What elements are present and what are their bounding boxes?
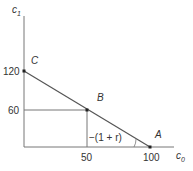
x-axis-label: c0 [176, 150, 185, 163]
budget-constraint-diagram: c1 c0 120 60 50 100 C B A −(1 + r) [0, 0, 193, 171]
y-axis-label: c1 [12, 4, 21, 17]
x-tick-50: 50 [81, 152, 93, 163]
point-b [86, 109, 89, 112]
x-tick-100: 100 [143, 152, 160, 163]
point-a-label: A [154, 129, 162, 140]
point-b-label: B [97, 92, 104, 103]
slope-angle-arc [134, 139, 136, 147]
y-tick-120: 120 [3, 66, 20, 77]
point-c [23, 70, 26, 73]
y-tick-60: 60 [8, 105, 20, 116]
slope-label: −(1 + r) [89, 132, 122, 143]
point-a [149, 146, 152, 149]
point-c-label: C [31, 55, 39, 66]
